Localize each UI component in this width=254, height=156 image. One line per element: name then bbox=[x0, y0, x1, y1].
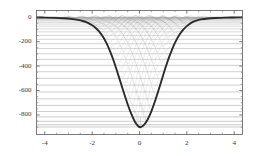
x-axis-tick-label: 0 bbox=[130, 139, 150, 147]
x-axis-tick-label: -4 bbox=[35, 139, 55, 147]
y-axis-tick-label: -400 bbox=[19, 62, 32, 70]
wavefunction-group bbox=[37, 16, 243, 133]
y-axis-tick-label: -800 bbox=[19, 110, 32, 118]
x-axis-tick-label: 2 bbox=[177, 139, 197, 147]
y-axis-tick-label: 0 bbox=[28, 13, 32, 21]
y-axis-tick-label: -200 bbox=[19, 37, 32, 45]
quantum-well-chart: 0-200-400-600-800-4-2024 bbox=[0, 0, 254, 156]
plot-canvas bbox=[0, 0, 254, 156]
x-axis-tick-label: 4 bbox=[224, 139, 244, 147]
y-axis-tick-label: -600 bbox=[19, 86, 32, 94]
x-axis-tick-label: -2 bbox=[82, 139, 102, 147]
